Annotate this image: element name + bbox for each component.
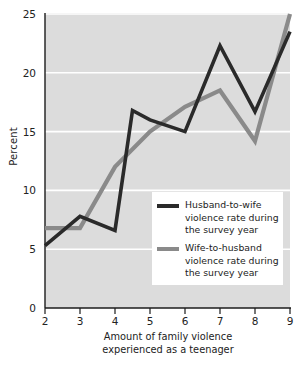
- y-tick-label-20: 20: [8, 68, 36, 79]
- legend-item-husband-to-wife: Husband-to-wife violence rate during the…: [157, 199, 279, 237]
- x-tick-label-5: 5: [142, 316, 158, 327]
- x-tick-label-3: 3: [72, 316, 88, 327]
- legend-label-line-2: violence rate during: [185, 255, 279, 266]
- legend-label-wife-to-husband: Wife-to-husband violence rate during the…: [185, 242, 279, 280]
- x-tick-label-2: 2: [37, 316, 53, 327]
- y-tick-label-15: 15: [8, 127, 36, 138]
- legend-label-line-1: Wife-to-husband: [185, 242, 262, 253]
- x-tick-marks: [45, 308, 290, 314]
- legend-item-wife-to-husband: Wife-to-husband violence rate during the…: [157, 242, 279, 280]
- legend-label-line-2: violence rate during: [185, 212, 279, 223]
- y-tick-label-5: 5: [8, 244, 36, 255]
- x-tick-label-9: 9: [282, 316, 298, 327]
- y-tick-label-25: 25: [8, 9, 36, 20]
- legend-label-line-1: Husband-to-wife: [185, 199, 262, 210]
- x-tick-label-7: 7: [212, 316, 228, 327]
- legend-label-line-3: the survey year: [185, 224, 258, 235]
- x-tick-label-4: 4: [107, 316, 123, 327]
- legend-swatch-husband-to-wife: [157, 204, 179, 208]
- line-chart: Percent 0 5 10 15 20 25 2 3 4 5 6 7 8 9 …: [0, 0, 303, 365]
- legend: Husband-to-wife violence rate during the…: [152, 192, 283, 285]
- y-tick-label-0: 0: [8, 303, 36, 314]
- x-axis-title-line-2: experienced as a teenager: [45, 344, 291, 357]
- x-axis-title-line-1: Amount of family violence: [45, 331, 291, 344]
- x-tick-label-8: 8: [247, 316, 263, 327]
- legend-label-husband-to-wife: Husband-to-wife violence rate during the…: [185, 199, 279, 237]
- y-axis-title: Percent: [8, 107, 19, 187]
- x-axis-title: Amount of family violence experienced as…: [45, 331, 291, 356]
- legend-label-line-3: the survey year: [185, 267, 258, 278]
- x-tick-label-6: 6: [177, 316, 193, 327]
- y-tick-label-10: 10: [8, 185, 36, 196]
- plot-canvas: [0, 0, 303, 365]
- legend-swatch-wife-to-husband: [157, 247, 179, 251]
